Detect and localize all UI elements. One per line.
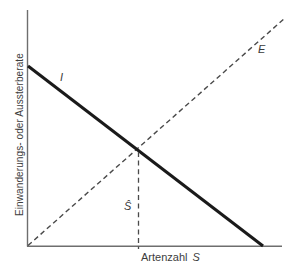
extinction-curve-e (28, 18, 285, 246)
x-axis-label: ArtenzahlS (141, 252, 200, 263)
plot-area (0, 0, 294, 268)
y-axis-label: Einwanderungs- oder Aussterberate (15, 53, 25, 216)
curve-label-extinction: E (258, 44, 265, 55)
x-axis-label-text: Artenzahl (141, 251, 187, 263)
immigration-curve-i (28, 66, 263, 246)
island-biogeography-equilibrium-figure: Einwanderungs- oder Aussterberate Artenz… (0, 0, 294, 268)
equilibrium-species-label: Ŝ (124, 201, 131, 212)
curve-label-immigration: I (60, 72, 63, 83)
x-axis-label-symbol: S (192, 251, 199, 263)
